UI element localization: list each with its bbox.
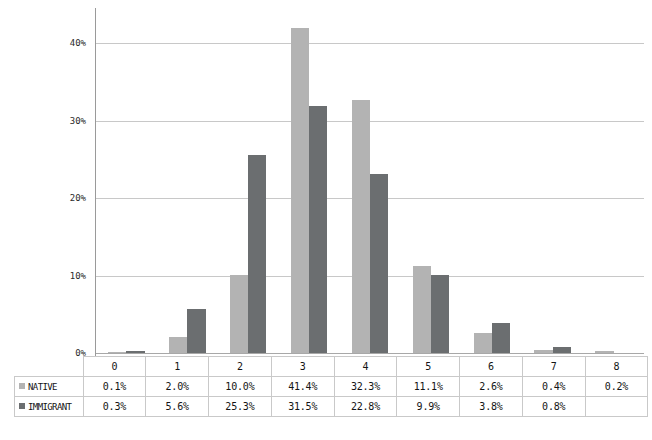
table-header-cell: 4 <box>334 357 397 377</box>
bar-group-1 <box>157 8 218 353</box>
table-data-cell: 22.8% <box>334 397 397 417</box>
bar-native-1 <box>169 337 187 353</box>
table-data-cell: 0.1% <box>83 377 146 397</box>
table-data-cell: 0.2% <box>585 377 648 397</box>
legend-swatch-icon <box>19 403 25 409</box>
table-header-cell: 7 <box>522 357 585 377</box>
bar-immigrant-7 <box>553 347 571 353</box>
table-row: NATIVE0.1%2.0%10.0%41.4%32.3%11.1%2.6%0.… <box>15 377 648 397</box>
y-tick-label: 20% <box>70 193 86 203</box>
y-tick-label: 30% <box>70 116 86 126</box>
legend-item-immigrant[interactable]: IMMIGRANT <box>15 397 84 417</box>
bar-native-3 <box>291 28 309 353</box>
table-corner <box>15 357 84 377</box>
table-data-cell: 0.4% <box>522 377 585 397</box>
bar-group-8 <box>583 8 644 353</box>
bar-immigrant-3 <box>309 106 327 353</box>
legend-label: NATIVE <box>28 382 57 392</box>
bar-group-4 <box>340 8 401 353</box>
table-data-cell <box>585 397 648 417</box>
bar-immigrant-6 <box>492 323 510 353</box>
bar-immigrant-5 <box>431 275 449 353</box>
legend-swatch-icon <box>19 383 25 389</box>
y-tick-label: 40% <box>70 38 86 48</box>
y-tick-label: 10% <box>70 271 86 281</box>
table-data-cell: 31.5% <box>271 397 334 417</box>
data-table: 012345678 NATIVE0.1%2.0%10.0%41.4%32.3%1… <box>14 356 648 417</box>
y-axis: 40% 30% 20% 10% 0% <box>0 0 92 356</box>
table-body: NATIVE0.1%2.0%10.0%41.4%32.3%11.1%2.6%0.… <box>15 377 648 417</box>
table-data-cell: 9.9% <box>397 397 460 417</box>
table-header-cell: 8 <box>585 357 648 377</box>
table-data-cell: 25.3% <box>209 397 272 417</box>
table-data-cell: 11.1% <box>397 377 460 397</box>
bar-native-6 <box>474 333 492 353</box>
bar-immigrant-0 <box>126 351 144 353</box>
table-data-cell: 41.4% <box>271 377 334 397</box>
bar-immigrant-1 <box>187 309 205 353</box>
table-header-row: 012345678 <box>15 357 648 377</box>
plot-area: 40% 30% 20% 10% 0% <box>0 0 652 356</box>
table-header-cell: 3 <box>271 357 334 377</box>
table-data-cell: 2.0% <box>146 377 209 397</box>
bar-native-0 <box>108 352 126 354</box>
table-data-cell: 5.6% <box>146 397 209 417</box>
bar-native-2 <box>230 275 248 353</box>
table-header-cell: 1 <box>146 357 209 377</box>
bar-group-3 <box>279 8 340 353</box>
table-data-cell: 2.6% <box>460 377 523 397</box>
table-data-cell: 0.3% <box>83 397 146 417</box>
legend-label: IMMIGRANT <box>28 402 71 412</box>
bar-group-5 <box>400 8 461 353</box>
table-header-cell: 6 <box>460 357 523 377</box>
bar-native-8 <box>595 351 613 353</box>
table-header-cell: 2 <box>209 357 272 377</box>
bar-group-2 <box>218 8 279 353</box>
bar-native-5 <box>413 266 431 353</box>
table-data-cell: 10.0% <box>209 377 272 397</box>
table-row: IMMIGRANT0.3%5.6%25.3%31.5%22.8%9.9%3.8%… <box>15 397 648 417</box>
bar-group-0 <box>96 8 157 353</box>
table-data-cell: 32.3% <box>334 377 397 397</box>
bar-immigrant-4 <box>370 174 388 353</box>
bar-immigrant-2 <box>248 155 266 353</box>
bars <box>96 0 644 356</box>
legend-item-native[interactable]: NATIVE <box>15 377 84 397</box>
table-data-cell: 3.8% <box>460 397 523 417</box>
table-header-cell: 5 <box>397 357 460 377</box>
bar-native-7 <box>534 350 552 353</box>
bar-chart-with-data-table: 40% 30% 20% 10% 0% 012345678 NATIVE0.1%2… <box>0 0 652 440</box>
bar-group-6 <box>461 8 522 353</box>
bar-native-4 <box>352 100 370 353</box>
table-data-cell: 0.8% <box>522 397 585 417</box>
bar-group-7 <box>522 8 583 353</box>
table-header-cell: 0 <box>83 357 146 377</box>
